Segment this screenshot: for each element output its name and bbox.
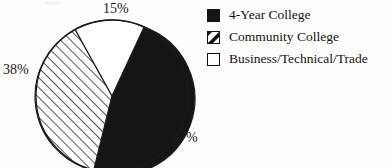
slice-label-community-college: 38% [3,63,29,77]
pie-chart-area: 15% 38% 47% [0,0,205,168]
legend-label-community-college: Community College [229,30,339,44]
slice-label-4-year-college: 47% [172,131,198,145]
legend-item-4-year-college: 4-Year College [207,4,390,26]
chart-legend: 4-Year College Community College Busines… [207,4,390,70]
empty-square-icon [207,53,220,66]
solid-black-square-icon [207,9,220,22]
hatched-square-icon [207,31,220,44]
slice-label-business-technical-trade: 15% [103,2,129,16]
legend-label-business-technical-trade: Business/Technical/Trade [229,52,368,66]
legend-item-business-technical-trade: Business/Technical/Trade [207,48,390,70]
pie-chart-figure: 15% 38% 47% 4-Year College Community Col… [0,0,390,168]
legend-item-community-college: Community College [207,26,390,48]
legend-label-4-year-college: 4-Year College [229,8,311,22]
